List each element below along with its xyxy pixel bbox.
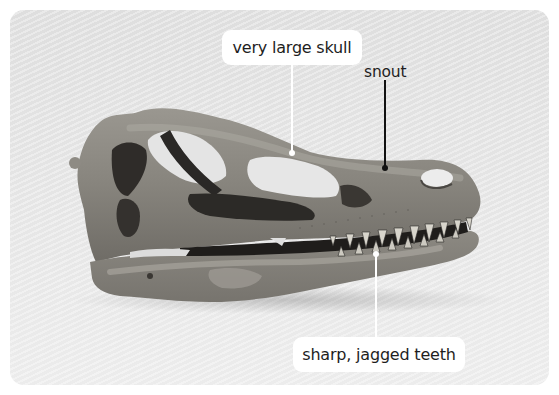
label-snout: snout	[364, 63, 406, 81]
snout-leader-line	[384, 80, 386, 168]
label-sharp-jagged-teeth: sharp, jagged teeth	[293, 337, 465, 372]
photo-panel: very large skull snout sharp, jagged tee…	[10, 10, 549, 385]
teeth-leader-line	[375, 255, 377, 337]
snout-leader-dot	[382, 165, 388, 171]
teeth-leader-dot	[373, 251, 379, 257]
dinosaur-skull-image	[10, 10, 549, 385]
skull-leader-dot	[289, 150, 295, 156]
skull-leader-line	[291, 65, 293, 153]
label-very-large-skull: very large skull	[222, 30, 362, 65]
